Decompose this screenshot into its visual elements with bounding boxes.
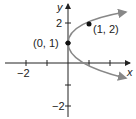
x-axis-label: x xyxy=(126,66,133,78)
tick-label-x-neg2: −2 xyxy=(17,67,30,79)
tick-label-y-neg2: −2 xyxy=(52,100,65,112)
point-label-1-2: (1, 2) xyxy=(93,23,119,35)
y-axis-label: y xyxy=(56,1,64,13)
parabola-graph: y x −2 2 −2 (0, 1) (1, 2) xyxy=(0,0,136,119)
point-label-0-1: (0, 1) xyxy=(33,37,59,49)
point-1-2 xyxy=(87,22,92,27)
point-0-1 xyxy=(66,41,71,46)
parabola-curve xyxy=(68,12,125,78)
tick-label-y-2: 2 xyxy=(56,17,62,29)
